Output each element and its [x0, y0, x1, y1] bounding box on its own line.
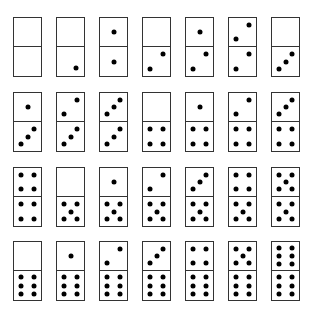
pip-icon	[154, 209, 159, 214]
pip-icon	[233, 141, 238, 146]
pip-icon	[276, 202, 281, 207]
domino-5-6	[228, 241, 257, 301]
pip-icon	[276, 254, 281, 259]
pip-icon	[276, 112, 281, 117]
pip-icon	[233, 127, 238, 132]
pip-icon	[190, 202, 195, 207]
pip-icon	[276, 216, 281, 221]
pip-icon	[204, 283, 209, 288]
pip-icon	[190, 283, 195, 288]
pip-icon	[18, 216, 23, 221]
pip-icon	[190, 66, 195, 71]
domino-half-top	[57, 168, 84, 197]
pip-icon	[283, 180, 288, 185]
pip-icon	[161, 141, 166, 146]
pip-icon	[147, 141, 152, 146]
domino-half-top	[272, 168, 299, 197]
pip-icon	[247, 202, 252, 207]
pip-icon	[190, 291, 195, 296]
pip-icon	[290, 254, 295, 259]
domino-2-4	[228, 92, 257, 152]
domino-half-bottom	[229, 122, 256, 151]
domino-half-bottom	[143, 197, 170, 226]
pip-icon	[233, 66, 238, 71]
pip-icon	[161, 291, 166, 296]
pip-icon	[118, 275, 123, 280]
pip-icon	[161, 216, 166, 221]
domino-half-top	[272, 93, 299, 122]
domino-half-bottom	[272, 47, 299, 76]
pip-icon	[276, 66, 281, 71]
domino-half-top	[14, 242, 41, 271]
domino-half-top	[272, 18, 299, 47]
pip-icon	[233, 291, 238, 296]
pip-icon	[104, 275, 109, 280]
pip-icon	[290, 141, 295, 146]
domino-half-bottom	[186, 197, 213, 226]
pip-icon	[61, 141, 66, 146]
pip-icon	[118, 127, 123, 132]
pip-icon	[290, 275, 295, 280]
pip-icon	[111, 134, 116, 139]
pip-icon	[283, 209, 288, 214]
domino-half-top	[186, 18, 213, 47]
pip-icon	[111, 180, 116, 185]
pip-icon	[18, 141, 23, 146]
pip-icon	[61, 112, 66, 117]
pip-icon	[276, 246, 281, 251]
pip-icon	[32, 291, 37, 296]
domino-1-1	[99, 17, 128, 77]
pip-icon	[18, 202, 23, 207]
pip-icon	[32, 283, 37, 288]
pip-icon	[147, 275, 152, 280]
pip-icon	[61, 291, 66, 296]
pip-icon	[32, 173, 37, 178]
pip-icon	[204, 141, 209, 146]
pip-icon	[190, 216, 195, 221]
pip-icon	[290, 261, 295, 266]
domino-half-bottom	[100, 47, 127, 76]
domino-half-bottom	[14, 197, 41, 226]
pip-icon	[32, 187, 37, 192]
pip-icon	[290, 98, 295, 103]
pip-icon	[276, 275, 281, 280]
pip-icon	[190, 261, 195, 266]
pip-icon	[75, 98, 80, 103]
pip-icon	[233, 261, 238, 266]
domino-half-top	[229, 93, 256, 122]
pip-icon	[276, 291, 281, 296]
pip-icon	[104, 261, 109, 266]
pip-icon	[111, 59, 116, 64]
domino-1-6	[56, 241, 85, 301]
domino-half-top	[57, 93, 84, 122]
domino-half-bottom	[272, 271, 299, 300]
pip-icon	[118, 283, 123, 288]
pip-icon	[147, 127, 152, 132]
pip-icon	[204, 291, 209, 296]
domino-half-bottom	[186, 122, 213, 151]
pip-icon	[276, 127, 281, 132]
pip-icon	[276, 141, 281, 146]
pip-icon	[161, 173, 166, 178]
domino-half-top	[186, 93, 213, 122]
pip-icon	[247, 141, 252, 146]
domino-half-bottom	[100, 271, 127, 300]
domino-half-top	[186, 168, 213, 197]
pip-icon	[18, 173, 23, 178]
domino-half-top	[100, 242, 127, 271]
domino-0-6	[13, 241, 42, 301]
pip-icon	[204, 216, 209, 221]
pip-icon	[290, 173, 295, 178]
pip-icon	[240, 254, 245, 259]
pip-icon	[247, 187, 252, 192]
domino-half-bottom	[272, 122, 299, 151]
pip-icon	[75, 202, 80, 207]
pip-icon	[290, 246, 295, 251]
pip-icon	[111, 105, 116, 110]
domino-1-2	[185, 17, 214, 77]
pip-icon	[68, 254, 73, 259]
domino-2-2	[228, 17, 257, 77]
pip-icon	[197, 105, 202, 110]
pip-icon	[283, 105, 288, 110]
pip-icon	[147, 291, 152, 296]
